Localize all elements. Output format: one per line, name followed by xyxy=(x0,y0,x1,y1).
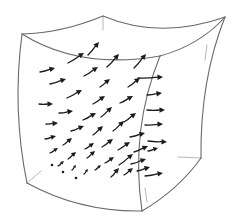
arrow-shaft xyxy=(145,124,158,125)
deformed-box-vector-field-figure xyxy=(0,0,236,224)
vector-dot-icon xyxy=(62,171,65,174)
vector-dot-icon xyxy=(51,164,54,167)
arrow-shaft xyxy=(46,123,53,124)
vector-dot-icon xyxy=(75,177,78,180)
